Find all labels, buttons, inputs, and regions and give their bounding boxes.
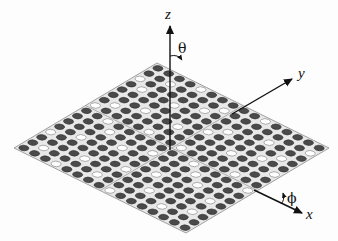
z-axis-label: z [164,6,171,22]
x-axis: x ϕ [254,190,313,222]
theta-rotation-arrow [170,56,182,61]
phi-label: ϕ [287,190,297,206]
lattice-plate [14,63,329,233]
y-axis-label: y [296,65,305,81]
x-axis-label: x [305,206,313,222]
theta-label: θ [178,40,186,56]
lattice-diagram: z θ y x ϕ [0,0,338,241]
phi-rotation-arrow [281,193,284,204]
diagram-canvas: z θ y x ϕ [0,0,338,241]
